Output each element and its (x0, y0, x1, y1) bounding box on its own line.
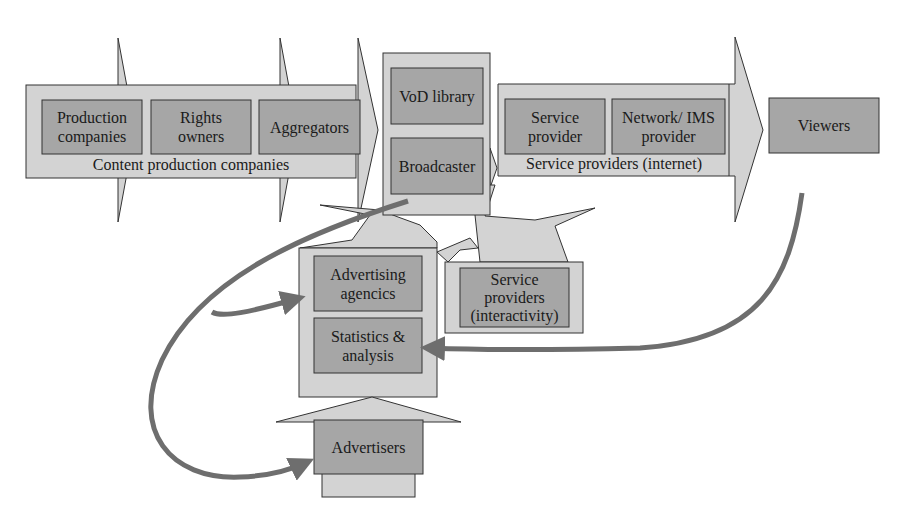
node-service-provider: Service provider (505, 99, 605, 154)
caption-content-production: Content production companies (26, 156, 356, 174)
callout-to-interactivity (475, 185, 595, 262)
caption-service-providers-internet: Service providers (internet) (498, 155, 730, 173)
node-aggregators: Aggregators (259, 100, 360, 154)
node-broadcaster: Broadcaster (391, 138, 483, 194)
node-advertisers: Advertisers (314, 420, 423, 474)
flow-arrow-branch-to-agencies (212, 299, 296, 314)
node-network-ims-provider: Network/ IMS provider (612, 99, 725, 154)
chevron-arrow-3 (358, 38, 378, 222)
node-service-providers-interactivity: Service providers (interactivity) (460, 268, 569, 327)
node-advertising-agencies: Advertising agencics (314, 256, 422, 311)
node-viewers: Viewers (769, 98, 879, 153)
node-vod-library: VoD library (391, 68, 483, 124)
advertisers-up-arrow (276, 397, 461, 422)
node-production-companies: Production companies (42, 100, 142, 154)
node-rights-owners: Rights owners (151, 100, 251, 154)
node-statistics-analysis: Statistics & analysis (314, 318, 422, 373)
